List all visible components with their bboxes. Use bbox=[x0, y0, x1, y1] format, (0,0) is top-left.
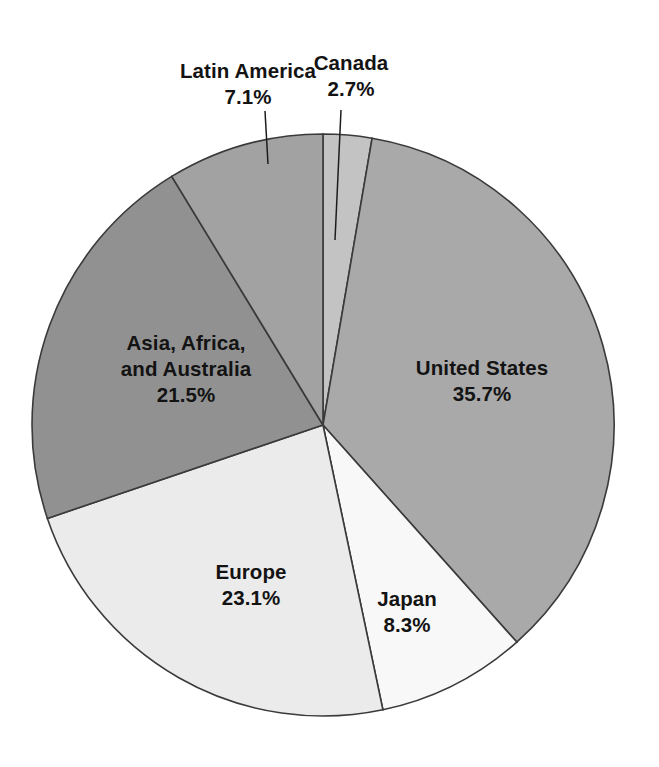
slice-label-asia-africa-australia-name-line1: Asia, Africa, bbox=[80, 330, 292, 356]
slice-label-japan: Japan 8.3% bbox=[344, 586, 470, 638]
slice-label-asia-africa-australia-name-line2: and Australia bbox=[80, 356, 292, 382]
slice-label-europe-pct: 23.1% bbox=[168, 585, 334, 611]
slice-label-united-states-pct: 35.7% bbox=[384, 381, 580, 407]
slice-label-europe: Europe 23.1% bbox=[168, 559, 334, 611]
slice-label-canada-name: Canada bbox=[281, 50, 421, 76]
slice-label-japan-pct: 8.3% bbox=[344, 612, 470, 638]
slice-label-canada-pct: 2.7% bbox=[281, 76, 421, 102]
pie-slices bbox=[32, 134, 614, 716]
slice-label-asia-africa-australia-pct: 21.5% bbox=[80, 382, 292, 408]
pie-chart: Latin America 7.1% Canada 2.7% United St… bbox=[0, 0, 659, 767]
slice-label-europe-name: Europe bbox=[168, 559, 334, 585]
slice-label-japan-name: Japan bbox=[344, 586, 470, 612]
slice-label-asia-africa-australia: Asia, Africa, and Australia 21.5% bbox=[80, 330, 292, 409]
slice-label-united-states-name: United States bbox=[384, 355, 580, 381]
slice-label-canada: Canada 2.7% bbox=[281, 50, 421, 102]
slice-label-united-states: United States 35.7% bbox=[384, 355, 580, 407]
